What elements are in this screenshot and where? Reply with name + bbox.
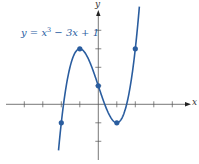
data-point (96, 83, 101, 88)
data-point (133, 46, 138, 51)
cubic-function-graph (0, 0, 199, 164)
data-point (77, 46, 82, 51)
data-point (114, 120, 119, 125)
equation-label: y = x3 − 3x + 1 (21, 26, 99, 38)
x-axis-label: x (192, 97, 197, 107)
data-point (59, 120, 64, 125)
y-axis-label: y (95, 0, 100, 9)
